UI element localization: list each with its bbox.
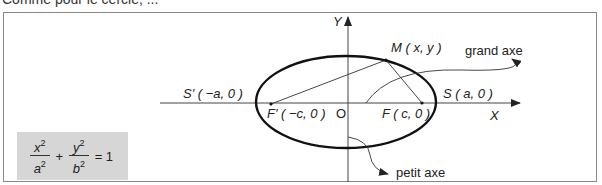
- fraction-y-b: y2 b2: [69, 136, 89, 177]
- grand-axe-label: grand axe: [465, 43, 523, 58]
- fraction-x-a: x2 a2: [30, 136, 50, 177]
- point-m-label: M ( x, y ): [391, 40, 442, 55]
- point-f: [420, 101, 423, 104]
- y-axis-label: Y: [333, 14, 342, 29]
- grand-axe-arrow: [366, 59, 516, 103]
- x-axis-label: X: [490, 108, 499, 123]
- point-f-label: F ( c, 0 ): [382, 106, 430, 121]
- point-s-prime-label: S' ( −a, 0 ): [183, 86, 243, 101]
- plus-sign: +: [56, 149, 64, 164]
- ellipse: [256, 56, 436, 148]
- point-m: [384, 58, 387, 61]
- ellipse-equation: x2 a2 + y2 b2 = 1: [17, 132, 128, 180]
- petit-axe-label: petit axe: [396, 165, 445, 180]
- point-s-label: S ( a, 0 ): [443, 86, 493, 101]
- origin-label: O: [336, 106, 346, 121]
- point-f-prime-label: F' ( −c, 0 ): [267, 106, 325, 121]
- petit-axe-arrow: [348, 137, 388, 174]
- equals-one: = 1: [95, 149, 113, 164]
